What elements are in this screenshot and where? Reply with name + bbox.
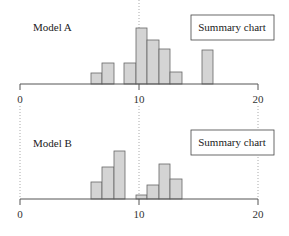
legend-label: Summary chart (198, 136, 266, 148)
panel-title: Model A (33, 21, 72, 33)
legend-label: Summary chart (198, 21, 266, 33)
tick-0: 0 (17, 208, 23, 220)
panel-model-b: Model B Summary chart 0 10 20 (17, 130, 274, 220)
panel-title: Model B (33, 137, 72, 149)
histogram-bars (91, 151, 182, 199)
chart-figure: Model A Summary chart 0 10 20 Model B Su… (0, 0, 289, 236)
tick-20: 20 (253, 208, 265, 220)
tick-10: 10 (134, 208, 146, 220)
panel-model-a: Model A Summary chart 0 10 20 (17, 15, 274, 105)
x-axis (20, 84, 258, 90)
tick-20: 20 (253, 93, 265, 105)
tick-0: 0 (17, 93, 23, 105)
tick-10: 10 (134, 93, 146, 105)
x-axis (20, 199, 258, 205)
